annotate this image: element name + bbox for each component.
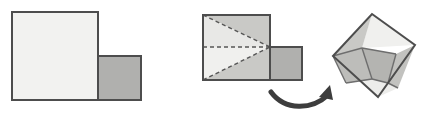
dissection-figure	[0, 0, 428, 124]
large-square	[12, 12, 98, 100]
transform-arrow	[271, 85, 333, 106]
panel-result-shape	[333, 14, 415, 97]
transform-arrow-curve	[271, 92, 328, 106]
dissection-svg	[0, 0, 428, 124]
panel-source-shape	[12, 12, 141, 100]
small-square-piece	[270, 47, 302, 80]
small-square	[98, 56, 141, 100]
panel-cut-shape	[203, 15, 302, 80]
